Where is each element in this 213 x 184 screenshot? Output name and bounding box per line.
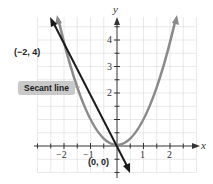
y-axis-label: y	[113, 3, 118, 15]
y-axis	[114, 17, 120, 178]
y-tick-3: 3	[107, 61, 112, 72]
x-tick-neg1: −1	[83, 149, 94, 160]
y-tick-2: 2	[107, 87, 112, 98]
secant-line-tag: Secant line	[18, 81, 75, 95]
point-label-neg2-4: (−2, 4)	[14, 47, 40, 57]
x-axis-label: x	[201, 139, 206, 151]
x-tick-neg2: −2	[56, 149, 67, 160]
x-tick-2: 2	[167, 149, 172, 160]
x-tick-1: 1	[140, 149, 145, 160]
y-tick-4: 4	[107, 34, 112, 45]
